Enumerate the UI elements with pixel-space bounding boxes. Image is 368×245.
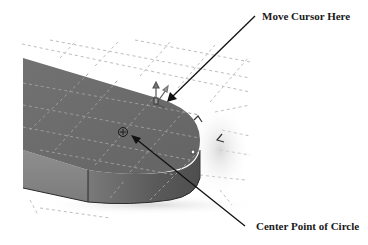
cad-viewport[interactable]: Move Cursor Here Center Point of Circle xyxy=(0,0,368,245)
callout-move-cursor-here: Move Cursor Here xyxy=(262,10,350,22)
callout-center-point-of-circle: Center Point of Circle xyxy=(256,220,359,232)
viewport-canvas[interactable] xyxy=(0,0,368,245)
body-top-face[interactable] xyxy=(23,58,200,174)
move-cursor-arrow xyxy=(167,16,255,102)
